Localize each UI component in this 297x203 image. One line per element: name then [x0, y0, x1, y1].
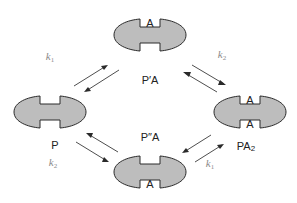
rate-label-k2-bottom: k2: [49, 156, 58, 170]
rate-label-k2-top: k2: [218, 48, 227, 62]
equilibrium-arrows-top-left: [74, 65, 119, 92]
notch-label-bottom: A: [246, 118, 254, 130]
reaction-cycle-diagram: A P′A P A A PA2 A P″A k1 k2 k2: [0, 0, 297, 203]
equilibrium-arrows-bottom-left: [76, 133, 118, 162]
state-label-top: P′A: [142, 74, 159, 86]
state-label-left: P: [51, 139, 58, 151]
molecule-right: A A: [214, 94, 286, 130]
rate-label-k1-top: k1: [46, 50, 55, 64]
molecule-bottom: A: [114, 156, 186, 190]
molecule-left: [14, 96, 86, 128]
notch-label-bottom: A: [146, 178, 154, 190]
equilibrium-arrows-top-right: [183, 65, 226, 92]
molecule-top: A: [114, 17, 186, 51]
rate-label-k1-bottom: k1: [206, 157, 215, 171]
equilibrium-arrows-bottom-right: [182, 135, 224, 162]
state-label-right: PA2: [237, 140, 256, 153]
notch-label-top: A: [246, 94, 254, 106]
notch-label-top: A: [146, 17, 154, 29]
state-label-bottom: P″A: [141, 131, 160, 143]
